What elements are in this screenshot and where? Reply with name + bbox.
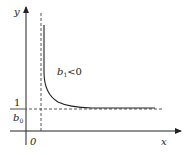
origin-label: 0	[30, 136, 37, 147]
x-axis-label: x	[161, 136, 167, 147]
curve-condition-label: b1<0	[57, 66, 82, 78]
fraction-denominator: b0	[13, 112, 23, 124]
diagram-canvas: 1 b0 b1<0 y x 0	[0, 0, 188, 155]
y-axis-label: y	[13, 6, 20, 17]
fraction-numerator: 1	[14, 97, 20, 108]
